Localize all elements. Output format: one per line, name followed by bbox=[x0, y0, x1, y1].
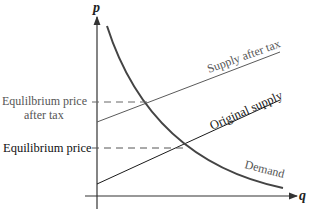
x-axis-label: q bbox=[299, 188, 306, 203]
y-axis-label: p bbox=[92, 0, 100, 15]
demand-label: Demand bbox=[243, 157, 286, 180]
original-supply-label: Original supply bbox=[208, 88, 286, 133]
equilibrium-price-label: Equilibrium price bbox=[3, 141, 92, 155]
equilibrium-after-tax-label-line2: after tax bbox=[24, 108, 64, 122]
supply-demand-tax-diagram: p q Supply after tax Original supply Dem… bbox=[0, 0, 310, 223]
equilibrium-after-tax-label-line1: Equlilbrium price bbox=[2, 94, 87, 108]
